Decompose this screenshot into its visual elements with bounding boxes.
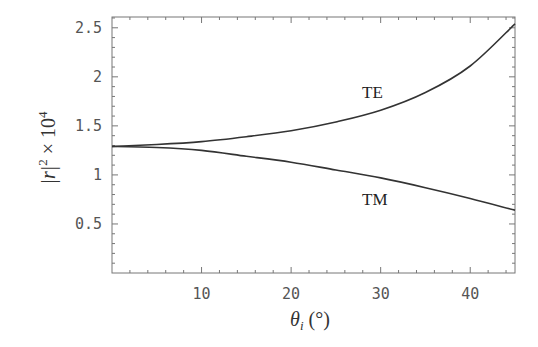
curve-te <box>112 24 515 147</box>
y-tick-label: 0.5 <box>75 215 102 233</box>
y-axis-title: |r|2 × 104 <box>35 111 60 185</box>
curve-tm <box>112 147 515 211</box>
x-tick-label: 20 <box>282 285 300 303</box>
x-tick-label: 10 <box>193 285 211 303</box>
y-tick-label: 2.5 <box>75 19 102 37</box>
axis-ticks <box>112 17 515 273</box>
plot-frame <box>112 17 515 273</box>
tm-curve-label: TM <box>362 190 388 209</box>
y-tick-label: 1.5 <box>75 117 102 135</box>
te-curve-label: TE <box>362 83 383 102</box>
x-tick-label: 30 <box>372 285 390 303</box>
y-tick-label: 2 <box>93 68 102 86</box>
y-tick-label: 1 <box>93 166 102 184</box>
curves <box>112 24 515 210</box>
x-tick-label: 40 <box>461 285 479 303</box>
reflectance-chart: 102030400.511.522.5 TE TM θi (°) |r|2 × … <box>0 0 538 347</box>
x-axis-title: θi (°) <box>290 308 330 333</box>
